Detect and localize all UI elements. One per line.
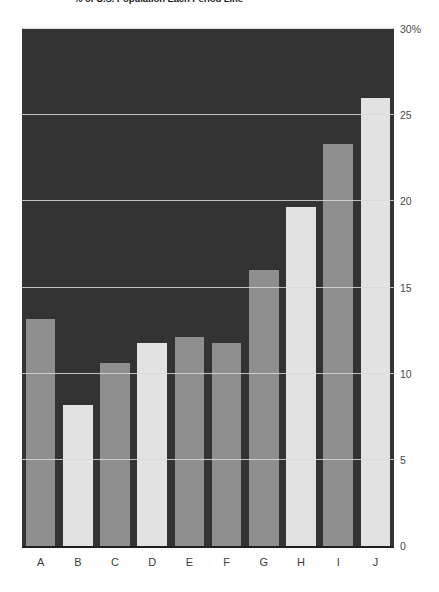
gridline-30 [22,28,394,29]
x-axis-tick-label-A: A [37,556,44,568]
x-axis-tick-label-H: H [297,556,305,568]
y-axis-tick-label-20: 20 [400,195,412,207]
y-axis-tick-label-10: 10 [400,368,412,380]
gridline-10 [22,373,394,374]
x-axis-tick-label-F: F [223,556,230,568]
x-axis-tick-label-D: D [148,556,156,568]
bar-chart: 051015202530%ABCDEFGHIJ [0,0,439,592]
bar-H[interactable] [286,207,316,546]
x-axis-tick-label-I: I [337,556,340,568]
x-axis-tick-label-B: B [74,556,81,568]
x-axis-tick-label-E: E [186,556,193,568]
y-axis-tick-label-15: 15 [400,282,412,294]
bar-J[interactable] [361,98,391,546]
gridline-25 [22,114,394,115]
x-axis-tick-label-C: C [111,556,119,568]
bar-I[interactable] [323,144,353,546]
bar-G[interactable] [249,270,279,546]
y-axis-tick-label-0: 0 [400,540,406,552]
gridline-20 [22,200,394,201]
bar-series [22,29,394,546]
bar-B[interactable] [63,405,93,546]
gridline-5 [22,459,394,460]
y-axis-tick-label-30: 30% [400,23,421,35]
gridline-15 [22,287,394,288]
bar-A[interactable] [26,319,56,546]
plot-area [22,29,394,546]
bar-C[interactable] [100,363,130,546]
x-axis-tick-label-G: G [260,556,269,568]
x-axis-line [22,546,394,548]
bar-E[interactable] [175,337,205,546]
y-axis-tick-label-25: 25 [400,109,412,121]
y-axis-tick-label-5: 5 [400,454,406,466]
x-axis-tick-label-J: J [373,556,379,568]
